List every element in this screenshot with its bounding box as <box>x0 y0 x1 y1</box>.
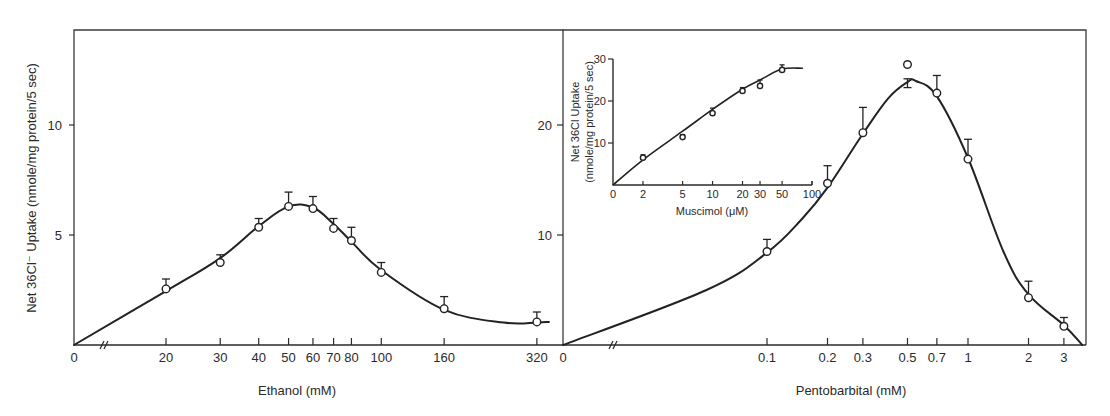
open-circle-marker-icon <box>779 67 784 72</box>
data-point <box>763 239 771 255</box>
x-tick-label: 40 <box>251 350 265 365</box>
open-circle-marker-icon <box>162 285 170 293</box>
x-tick-label: 1 <box>964 350 971 365</box>
open-circle-marker-icon <box>680 135 685 140</box>
chart-canvas: Net 36Cl⁻ Uptake (nmole/mg protein/5 sec… <box>0 0 1110 416</box>
open-circle-marker-icon <box>330 225 338 233</box>
inset-y-axis-title-line2: (nmole/mg protein/5 sec) <box>583 61 595 183</box>
x-tick-label: 2 <box>640 188 646 200</box>
open-circle-marker-icon <box>904 61 912 69</box>
data-point <box>859 107 867 136</box>
x-tick-label: 30 <box>754 188 766 200</box>
y-axis-title: Net 36Cl⁻ Uptake (nmole/mg protein/5 sec… <box>24 63 39 313</box>
data-point <box>162 279 170 293</box>
open-circle-marker-icon <box>710 111 715 116</box>
data-point <box>309 197 317 213</box>
x-tick-label: 2 <box>1025 350 1032 365</box>
pentobarbital-y-ticks: 1020 <box>538 118 563 243</box>
data-point <box>640 155 645 161</box>
open-circle-marker-icon <box>859 129 867 137</box>
x-tick-label: 80 <box>344 350 358 365</box>
open-circle-marker-icon <box>216 259 224 267</box>
data-point <box>779 65 784 73</box>
ethanol-panel: 510 020304050607080100160320 Ethanol (mM… <box>48 30 563 398</box>
open-circle-marker-icon <box>640 155 645 160</box>
data-point <box>377 263 385 277</box>
inset-fit-curve <box>613 68 802 185</box>
data-point <box>933 76 941 97</box>
x-tick-label: 3 <box>1060 350 1067 365</box>
x-tick-label: 0.2 <box>818 350 836 365</box>
open-circle-marker-icon <box>309 205 317 213</box>
x-tick-label: 160 <box>433 350 455 365</box>
x-tick-label: 50 <box>776 188 788 200</box>
y-tick-label: 20 <box>538 118 552 133</box>
y-tick-label: 10 <box>594 137 606 149</box>
x-tick-label: 0.3 <box>854 350 872 365</box>
data-point <box>710 108 715 116</box>
data-point <box>285 192 293 210</box>
inset-x-axis-title: Muscimol (μM) <box>676 205 748 217</box>
pentobarbital-fit-curve <box>563 79 1082 345</box>
x-tick-label: 0.1 <box>758 350 776 365</box>
x-tick-label: 0 <box>70 350 77 365</box>
data-point <box>740 88 745 94</box>
open-circle-marker-icon <box>757 83 762 88</box>
x-tick-label: 20 <box>159 350 173 365</box>
open-circle-marker-icon <box>740 88 745 93</box>
data-point <box>1060 318 1068 331</box>
data-point <box>824 166 832 187</box>
y-tick-label: 30 <box>594 53 606 65</box>
x-tick-label: 70 <box>326 350 340 365</box>
open-circle-marker-icon <box>1025 294 1033 302</box>
pentobarbital-x-ticks: 00.10.20.30.50.7123 <box>559 338 1067 365</box>
y-tick-label: 5 <box>55 228 62 243</box>
ethanol-x-axis-title: Ethanol (mM) <box>258 383 336 398</box>
ethanol-y-ticks: 510 <box>48 118 74 243</box>
open-circle-marker-icon <box>824 180 832 188</box>
open-circle-marker-icon <box>964 155 972 163</box>
data-point <box>533 312 541 326</box>
data-point <box>680 135 685 140</box>
open-circle-marker-icon <box>1060 323 1068 331</box>
open-circle-marker-icon <box>440 305 448 313</box>
x-tick-label: 60 <box>306 350 320 365</box>
data-point <box>255 219 263 232</box>
x-tick-label: 320 <box>526 350 548 365</box>
x-tick-label: 0 <box>559 350 566 365</box>
open-circle-marker-icon <box>255 224 263 232</box>
ethanol-plot-frame <box>74 30 563 345</box>
muscimol-inset-panel: 102030 02510203050100 Net 36Cl Uptake (n… <box>569 53 821 217</box>
x-tick-label: 30 <box>213 350 227 365</box>
inset-y-ticks: 102030 <box>594 53 613 149</box>
open-circle-marker-icon <box>533 318 541 326</box>
y-tick-label: 20 <box>594 95 606 107</box>
inset-y-axis-title-line1: Net 36Cl Uptake <box>569 82 581 163</box>
x-tick-label: 0.7 <box>928 350 946 365</box>
x-tick-label: 20 <box>736 188 748 200</box>
ethanol-fit-curve <box>74 204 549 345</box>
data-point <box>347 227 355 244</box>
x-tick-label: 100 <box>803 188 821 200</box>
open-circle-marker-icon <box>933 89 941 97</box>
y-tick-label: 10 <box>48 118 62 133</box>
open-circle-marker-icon <box>285 203 293 211</box>
x-tick-label: 5 <box>680 188 686 200</box>
y-tick-label: 10 <box>538 228 552 243</box>
x-tick-label: 10 <box>706 188 718 200</box>
open-circle-marker-icon <box>763 248 771 256</box>
pentobarbital-panel: 1020 00.10.20.30.50.7123 Pentobarbital (… <box>538 30 1086 398</box>
inset-x-ticks: 02510203050100 <box>610 181 821 200</box>
x-tick-label: 0.5 <box>898 350 916 365</box>
data-point <box>440 297 448 313</box>
open-circle-marker-icon <box>348 237 356 245</box>
figure: Net 36Cl⁻ Uptake (nmole/mg protein/5 sec… <box>0 0 1110 416</box>
ethanol-data-points <box>162 192 541 326</box>
pentobarbital-x-axis-title: Pentobarbital (mM) <box>796 383 907 398</box>
x-tick-label: 0 <box>610 188 616 200</box>
x-tick-label: 100 <box>370 350 392 365</box>
x-tick-label: 50 <box>281 350 295 365</box>
open-circle-marker-icon <box>377 269 385 277</box>
ethanol-x-ticks: 020304050607080100160320 <box>70 338 547 365</box>
